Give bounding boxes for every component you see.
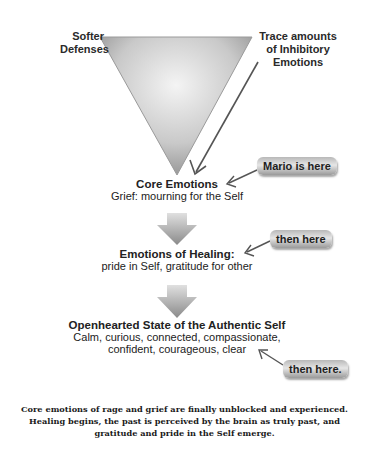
inhibitory-emotions-label: Trace amounts of Inhibitory Emotions <box>256 30 340 69</box>
stage-title: Core Emotions <box>77 178 277 190</box>
softer-defenses-label: Softer Defenses <box>60 30 104 56</box>
stage-text: Calm, curious, connected, compassionate, <box>47 331 307 343</box>
tag-then-here: then here <box>270 230 332 248</box>
stage-healing: Emotions of Healing: pride in Self, grat… <box>67 248 287 272</box>
stage-authentic-self: Openhearted State of the Authentic Self … <box>47 319 307 355</box>
stage-text: Grief: mourning for the Self <box>77 190 277 202</box>
label-line: Trace amounts <box>256 30 340 43</box>
stage-title: Emotions of Healing: <box>67 248 287 260</box>
label-line: of Inhibitory <box>256 43 340 56</box>
tag-mario-is-here: Mario is here <box>257 157 337 175</box>
caption-line: Core emotions of rage and grief are fina… <box>0 403 369 415</box>
stage-title: Openhearted State of the Authentic Self <box>47 319 307 331</box>
caption: Core emotions of rage and grief are fina… <box>0 403 369 439</box>
caption-line: gratitude and pride in the Self emerge. <box>0 427 369 439</box>
caption-line: Healing begins, the past is perceived by… <box>0 415 369 427</box>
down-arrow-2 <box>157 285 197 318</box>
down-arrow-1 <box>157 213 197 245</box>
label-line: Defenses <box>60 43 104 56</box>
tag-then-here-final: then here. <box>283 360 348 378</box>
label-line: Emotions <box>256 56 340 69</box>
label-line: Softer <box>60 30 104 43</box>
stage-text: confident, courageous, clear <box>47 343 307 355</box>
funnel-triangle <box>100 37 252 175</box>
stage-text: pride in Self, gratitude for other <box>67 260 287 272</box>
stage-core-emotions: Core Emotions Grief: mourning for the Se… <box>77 178 277 202</box>
